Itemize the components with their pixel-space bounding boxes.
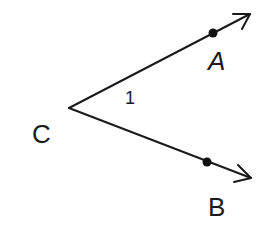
label-point-b: B [208, 192, 225, 222]
point-a [209, 29, 218, 38]
label-vertex-c: C [32, 119, 51, 149]
angle-diagram: C A B 1 [0, 0, 264, 230]
label-point-a: A [206, 46, 225, 76]
label-angle-1: 1 [125, 88, 135, 108]
point-b [203, 158, 212, 167]
ray-cb [69, 108, 251, 178]
